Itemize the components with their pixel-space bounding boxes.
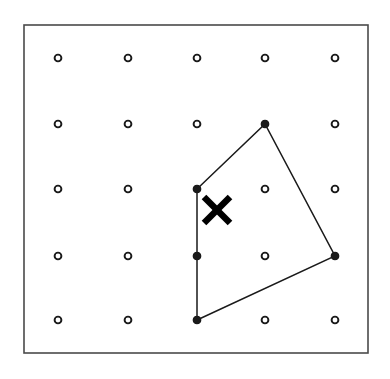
grid-dot <box>55 121 62 128</box>
grid-dot-ring <box>262 317 269 324</box>
grid-dot-ring <box>125 317 132 324</box>
grid-dot-ring <box>55 55 62 62</box>
grid-dot <box>332 186 339 193</box>
grid-dot-ring <box>125 121 132 128</box>
grid-dot-ring <box>125 253 132 260</box>
grid-dot <box>55 55 62 62</box>
grid-dot-ring <box>332 186 339 193</box>
grid-dot <box>125 55 132 62</box>
grid-dot-ring <box>55 317 62 324</box>
x-mark <box>204 197 230 223</box>
grid-dot-ring <box>332 121 339 128</box>
grid-dot <box>125 121 132 128</box>
grid-dot-ring <box>55 186 62 193</box>
grid-dot <box>332 317 339 324</box>
grid-dot <box>125 317 132 324</box>
grid-dot-ring <box>125 186 132 193</box>
grid-dot <box>194 55 201 62</box>
grid-dot-ring <box>332 317 339 324</box>
grid-dot <box>262 317 269 324</box>
grid-dot <box>55 317 62 324</box>
grid-dot <box>262 253 269 260</box>
grid-dot-ring <box>332 55 339 62</box>
grid-dot <box>55 186 62 193</box>
polygon-vertex-dot <box>261 120 268 127</box>
grid-dot <box>194 121 201 128</box>
polygon-vertex-dot <box>193 185 200 192</box>
grid-dot <box>262 186 269 193</box>
grid-dot-ring <box>262 186 269 193</box>
grid-dot <box>332 121 339 128</box>
grid-dot-ring <box>55 121 62 128</box>
grid-dot-ring <box>55 253 62 260</box>
grid-dot-ring <box>125 55 132 62</box>
grid-dot-ring <box>262 55 269 62</box>
grid-dot-ring <box>194 121 201 128</box>
polygon-vertex-dot <box>331 252 338 259</box>
geoboard-canvas <box>0 0 390 379</box>
grid-dot-ring <box>194 55 201 62</box>
grid-dot <box>262 55 269 62</box>
grid-dot-ring <box>262 253 269 260</box>
quadrilateral-outline <box>197 124 335 320</box>
polygon-vertex-dot <box>193 316 200 323</box>
grid-dot <box>55 253 62 260</box>
polygon-vertex-dot <box>193 252 200 259</box>
geoboard-figure: Geoboard dot grid with quadrilateral and… <box>0 0 390 379</box>
grid-dot <box>125 186 132 193</box>
grid-dot <box>125 253 132 260</box>
grid-dot <box>332 55 339 62</box>
